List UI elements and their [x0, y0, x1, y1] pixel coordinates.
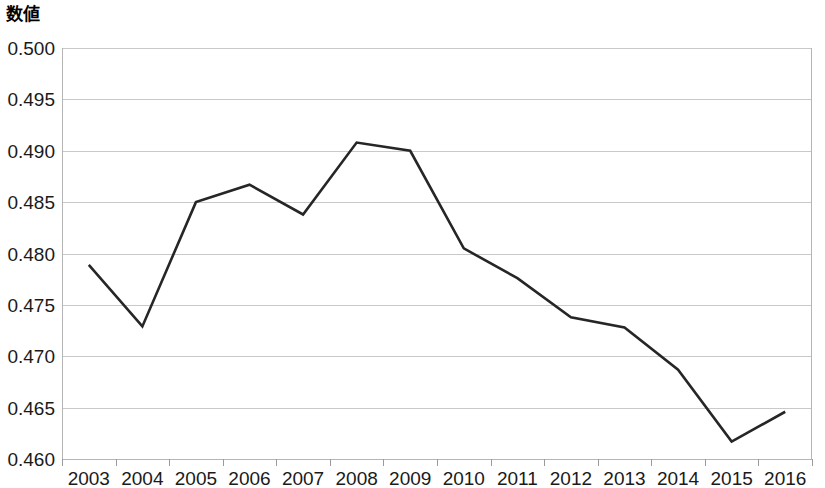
chart-container: 数値 0.5000.4950.4900.4850.4800.4750.4700.… — [0, 0, 825, 488]
y-tick-label: 0.490 — [7, 141, 55, 162]
x-tick-label: 2011 — [497, 468, 538, 488]
x-tick-label: 2005 — [175, 468, 217, 488]
y-tick-label: 0.470 — [7, 346, 55, 367]
y-tick-label: 0.465 — [7, 398, 55, 419]
y-tick-label: 0.485 — [7, 192, 55, 213]
y-tick-label: 0.480 — [7, 244, 55, 265]
x-tick-label: 2010 — [443, 468, 485, 488]
x-tick-labels-group: 2003200420052006200720082009201020112012… — [68, 468, 807, 488]
x-tick-label: 2008 — [336, 468, 378, 488]
x-tick-label: 2013 — [603, 468, 645, 488]
y-tick-label: 0.500 — [7, 38, 55, 59]
x-tick-label: 2003 — [68, 468, 110, 488]
data-series-line — [89, 143, 785, 442]
x-tick-label: 2015 — [711, 468, 753, 488]
y-tick-label: 0.460 — [7, 449, 55, 470]
x-tick-label: 2004 — [121, 468, 164, 488]
x-tick-label: 2012 — [550, 468, 592, 488]
y-tick-label: 0.495 — [7, 89, 55, 110]
x-tick-label: 2009 — [389, 468, 431, 488]
data-series-group — [89, 143, 785, 442]
y-tick-labels-group: 0.5000.4950.4900.4850.4800.4750.4700.465… — [7, 38, 55, 470]
y-tick-label: 0.475 — [7, 295, 55, 316]
line-chart-plot: 0.5000.4950.4900.4850.4800.4750.4700.465… — [0, 0, 825, 488]
x-tickmarks-group — [63, 459, 813, 466]
x-tick-label: 2016 — [764, 468, 806, 488]
x-tick-label: 2007 — [282, 468, 324, 488]
x-tick-label: 2006 — [228, 468, 270, 488]
x-tick-label: 2014 — [657, 468, 700, 488]
